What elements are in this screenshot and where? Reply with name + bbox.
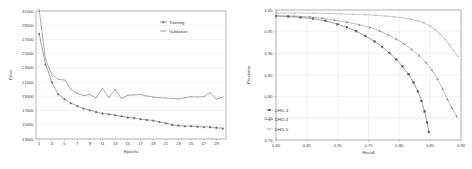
series-line (276, 13, 458, 56)
precision-recall-curve-chart: 0.700.750.800.850.900.951.000.600.650.70… (236, 0, 472, 169)
data-point (222, 127, 224, 129)
data-point (417, 91, 419, 93)
data-point (365, 35, 367, 37)
data-point (413, 82, 415, 84)
y-tick-label: 31000 (22, 9, 34, 14)
data-point (402, 17, 404, 19)
data-point (203, 126, 205, 128)
series-line (39, 34, 223, 129)
legend-label: DHD-5 (275, 127, 289, 132)
data-point (197, 126, 199, 128)
data-point (108, 113, 110, 115)
x-tick-label: 29 (214, 141, 219, 146)
x-tick-label: 7 (76, 141, 79, 146)
x-tick-label: 13 (113, 141, 118, 146)
series-dhd-3 (275, 15, 430, 133)
data-point (184, 125, 186, 127)
data-point (269, 128, 271, 130)
data-point (171, 124, 173, 126)
x-tick-label: 0.85 (426, 143, 435, 148)
data-point (403, 43, 405, 45)
precision-recall-panel: 0.700.750.800.850.900.951.000.600.650.70… (236, 0, 472, 169)
x-tick-label: 5 (63, 141, 66, 146)
data-point (374, 41, 376, 43)
data-point (140, 118, 142, 120)
legend: DHD-3DHD-4DHD-5 (266, 108, 289, 132)
data-point (102, 112, 104, 114)
data-point (375, 14, 377, 16)
data-point (275, 15, 277, 17)
data-point (395, 38, 397, 40)
x-tick-label: 0.80 (395, 143, 404, 148)
data-point (321, 17, 323, 19)
y-tick-label: 17000 (22, 108, 34, 113)
y-axis-title: Precision (246, 65, 251, 84)
data-point (346, 21, 348, 23)
data-point (421, 100, 423, 102)
training-validation-error-panel: 1300015000170001900021000230002500027000… (0, 0, 236, 169)
plot-frame (36, 11, 226, 139)
x-tick-label: 0.75 (365, 143, 374, 148)
x-tick-label: 1 (38, 141, 41, 146)
data-point (389, 52, 391, 54)
data-point (165, 122, 167, 124)
y-tick-label: 25000 (22, 51, 34, 56)
y-tick-label: 23000 (22, 65, 34, 70)
data-point (365, 14, 367, 16)
data-point (269, 109, 271, 111)
data-point (410, 18, 412, 20)
series-line (39, 10, 223, 100)
data-point (395, 59, 397, 61)
series-line (276, 16, 429, 132)
data-point (146, 119, 148, 121)
data-point (294, 12, 296, 14)
series-dhd-5 (275, 12, 459, 57)
x-tick-label: 27 (202, 141, 207, 146)
legend-label: Training (169, 20, 185, 25)
data-point (89, 109, 91, 111)
x-axis-title: Recall (362, 150, 374, 155)
data-point (402, 65, 404, 67)
x-tick-label: 0.70 (334, 143, 343, 148)
data-point (337, 23, 339, 25)
error-curve-chart: 1300015000170001900021000230002500027000… (0, 0, 236, 169)
gridlines (36, 11, 226, 139)
y-tick-label: 13000 (22, 137, 34, 142)
data-point (408, 73, 410, 75)
data-point (209, 126, 211, 128)
legend-label: DHD-3 (275, 108, 289, 113)
data-point (334, 19, 336, 21)
y-axis-ticks: 1300015000170001900021000230002500027000… (22, 9, 34, 142)
data-point (417, 20, 419, 22)
data-point (83, 107, 85, 109)
x-tick-label: 9 (89, 141, 92, 146)
data-point (45, 63, 47, 65)
data-point (312, 12, 314, 14)
y-tick-label: 0.80 (265, 94, 274, 99)
x-tick-label: 3 (51, 141, 54, 146)
x-tick-label: 15 (126, 141, 131, 146)
data-point (387, 34, 389, 36)
legend-label: Validation (169, 29, 188, 34)
data-point (340, 13, 342, 15)
data-point (51, 81, 53, 83)
y-tick-label: 21000 (22, 80, 34, 85)
x-tick-label: 0.60 (272, 143, 281, 148)
data-point (216, 127, 218, 129)
x-tick-label: 23 (176, 141, 181, 146)
x-tick-label: 17 (138, 141, 143, 146)
x-axis-ticks: 0.600.650.700.750.800.850.90 (272, 140, 466, 148)
data-point (159, 121, 161, 123)
y-tick-label: 1.00 (265, 8, 274, 13)
data-point (294, 15, 296, 17)
x-tick-label: 19 (151, 141, 156, 146)
data-point (95, 111, 97, 113)
data-point (381, 46, 383, 48)
data-point (70, 102, 72, 104)
series-training (38, 33, 224, 129)
data-point (385, 15, 387, 17)
y-axis-title: Error (8, 70, 13, 80)
series-validation (38, 10, 223, 100)
y-tick-label: 27000 (22, 37, 34, 42)
series-line (276, 16, 457, 117)
